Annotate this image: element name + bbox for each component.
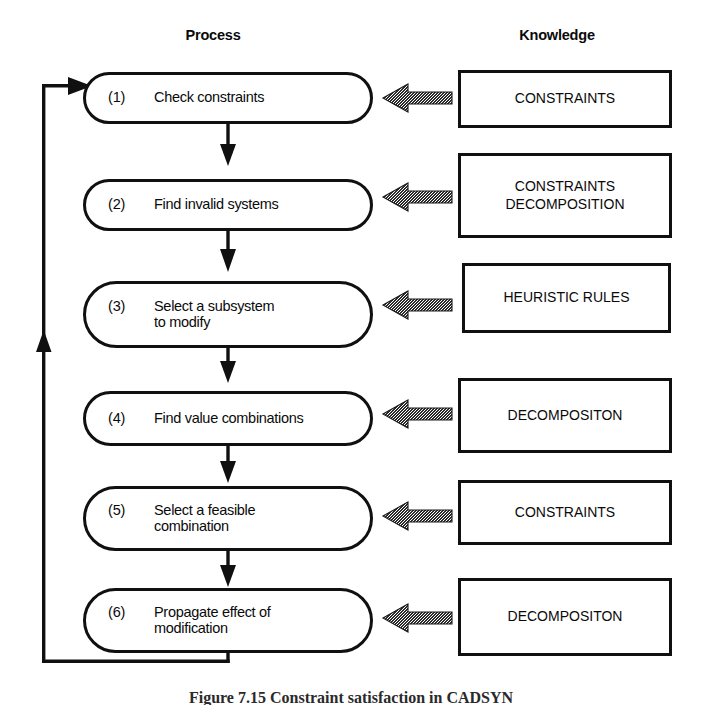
- knowledge-arrow-2: [383, 183, 452, 211]
- knowledge-arrow-5: [383, 502, 452, 530]
- knowledge-box-6-label: DECOMPOSITON: [508, 608, 623, 625]
- knowledge-box-3[interactable]: HEURISTIC RULES: [462, 263, 671, 333]
- step-flow-arrow-5-6: [220, 551, 236, 587]
- knowledge-box-6[interactable]: DECOMPOSITON: [458, 578, 672, 656]
- knowledge-box-1[interactable]: CONSTRAINTS: [458, 70, 672, 128]
- process-step-2[interactable]: (2) Find invalid systems: [83, 179, 373, 231]
- knowledge-box-3-label: HEURISTIC RULES: [503, 289, 629, 306]
- step-flow-arrow-3-4: [220, 348, 236, 383]
- process-step-2-number: (2): [108, 196, 125, 212]
- process-step-5[interactable]: (5) Select a feasible combination: [83, 486, 373, 551]
- knowledge-box-4-label: DECOMPOSITON: [508, 407, 623, 424]
- step-flow-arrow-2-3: [220, 231, 236, 272]
- process-step-4[interactable]: (4) Find value combinations: [83, 391, 373, 446]
- process-step-1-number: (1): [108, 89, 125, 105]
- knowledge-box-2-label: CONSTRAINTS DECOMPOSITION: [505, 178, 624, 212]
- knowledge-arrow-4: [383, 400, 452, 428]
- knowledge-arrow-3: [383, 291, 452, 319]
- knowledge-box-4[interactable]: DECOMPOSITON: [458, 378, 672, 453]
- feedback-loop-connector: [36, 77, 230, 663]
- process-step-6-label: Propagate effect of modification: [154, 604, 271, 637]
- process-step-5-label: Select a feasible combination: [154, 502, 255, 535]
- figure-canvas: Process Knowledge: [0, 0, 702, 705]
- figure-caption: Figure 7.15 Constraint satisfaction in C…: [0, 689, 702, 705]
- process-step-3[interactable]: (3) Select a subsystem to modify: [83, 281, 373, 348]
- process-step-1-label: Check constraints: [154, 89, 264, 106]
- knowledge-box-2[interactable]: CONSTRAINTS DECOMPOSITION: [458, 153, 672, 238]
- process-step-3-number: (3): [108, 298, 125, 314]
- knowledge-box-5-label: CONSTRAINTS: [515, 504, 615, 521]
- process-step-1[interactable]: (1) Check constraints: [83, 72, 373, 124]
- process-step-6[interactable]: (6) Propagate effect of modification: [83, 588, 373, 653]
- step-flow-arrow-4-5: [220, 446, 236, 483]
- knowledge-arrow-1: [383, 84, 452, 112]
- process-step-2-label: Find invalid systems: [154, 196, 279, 213]
- process-step-5-number: (5): [108, 502, 125, 518]
- knowledge-box-5[interactable]: CONSTRAINTS: [458, 480, 672, 545]
- process-step-6-number: (6): [108, 604, 125, 620]
- process-step-3-label: Select a subsystem to modify: [154, 298, 274, 331]
- knowledge-box-1-label: CONSTRAINTS: [515, 90, 615, 107]
- process-step-4-number: (4): [108, 410, 125, 426]
- step-flow-arrow-1-2: [220, 123, 236, 166]
- knowledge-arrow-6: [383, 604, 452, 632]
- process-step-4-label: Find value combinations: [154, 410, 303, 427]
